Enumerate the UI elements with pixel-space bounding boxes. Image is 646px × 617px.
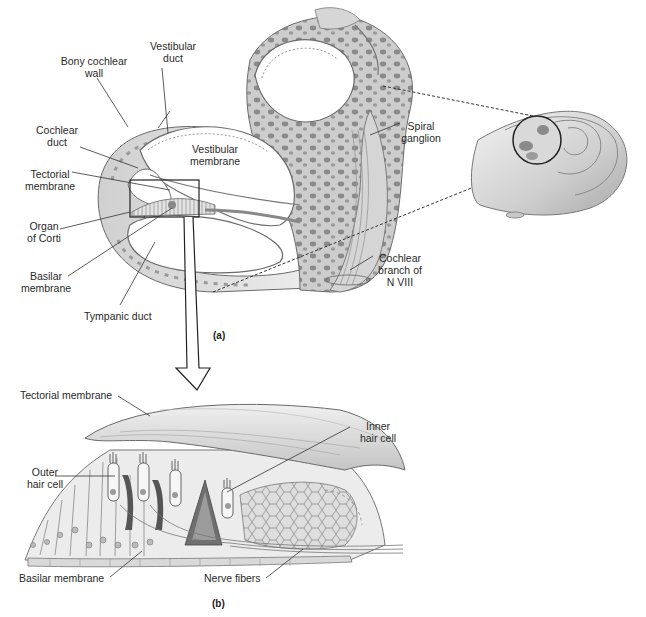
label-tectorial-membrane-a: Tectorial membrane [22,168,78,192]
label-inner-hair-cell: Inner hair cell [352,420,404,444]
panel-tag-a: (a) [213,330,225,341]
label-spiral-ganglion: Spiral ganglion [396,120,446,144]
organ-of-corti-detail [25,404,405,566]
label-line: branch of [372,264,428,276]
label-cochlear-duct: Cochlear duct [30,124,84,148]
label-bony-cochlear-wall: Bony cochlear wall [46,55,142,79]
label-line: Vestibular [180,143,250,155]
label-line: membrane [180,155,250,167]
label-line: Cochlear [30,124,84,136]
label-tectorial-membrane-b: Tectorial membrane [20,389,112,401]
label-line: wall [46,67,142,79]
label-line: Basilar [20,270,72,282]
label-line: membrane [20,282,72,294]
label-line: duct [138,52,208,64]
label-line: Vestibular [138,40,208,52]
label-line: duct [30,136,84,148]
panel-tag-b: (b) [212,598,225,609]
label-organ-of-corti: Organ of Corti [22,220,66,244]
label-cochlear-branch: Cochlear branch of N VIII [372,252,428,288]
label-line: membrane [22,180,78,192]
label-line: hair cell [22,478,68,490]
label-basilar-membrane-b: Basilar membrane [19,572,104,584]
label-line: of Corti [22,232,66,244]
label-line: hair cell [352,432,404,444]
cochlea-illustration [0,0,646,617]
label-line: Bony cochlear [46,55,142,67]
label-nerve-fibers: Nerve fibers [204,572,261,584]
label-vestibular-membrane: Vestibular membrane [180,143,250,167]
label-line: Outer [22,466,68,478]
label-line: N VIII [372,276,428,288]
label-line: Tectorial [22,168,78,180]
label-line: Inner [352,420,404,432]
label-tympanic-duct: Tympanic duct [84,310,152,322]
cochlea-shell [471,111,626,218]
label-line: Cochlear [372,252,428,264]
cochlea-figure: Bony cochlear wall Vestibular duct Cochl… [0,0,646,617]
label-line: ganglion [396,132,446,144]
label-vestibular-duct: Vestibular duct [138,40,208,64]
label-line: Organ [22,220,66,232]
label-basilar-membrane-a: Basilar membrane [20,270,72,294]
label-line: Spiral [396,120,446,132]
label-outer-hair-cell: Outer hair cell [22,466,68,490]
